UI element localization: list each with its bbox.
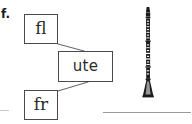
word-part-text-fl: fl	[35, 20, 46, 39]
word-part-box-ute[interactable]: ute	[58, 51, 113, 82]
word-part-box-fr[interactable]: fr	[24, 90, 58, 120]
connector-fr-to-ute	[58, 82, 88, 91]
connector-fl-to-ute	[58, 44, 84, 51]
word-part-box-fl[interactable]: fl	[24, 14, 58, 44]
word-part-text-fr: fr	[34, 96, 48, 115]
worksheet-page: f. fl ute fr	[0, 0, 192, 124]
word-part-text-ute: ute	[73, 59, 99, 74]
